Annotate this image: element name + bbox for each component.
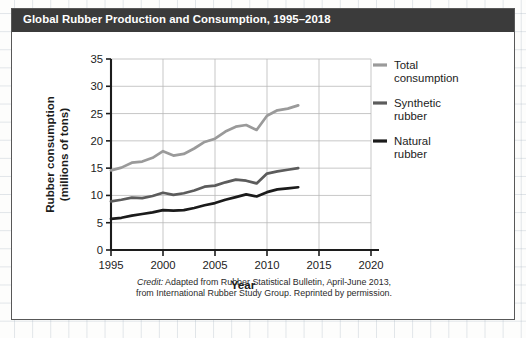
x-tick-label: 1995 [98,259,123,271]
figure-card: Global Rubber Production and Consumption… [11,8,515,320]
y-tick-label: 20 [90,135,103,147]
x-tick-label: 2010 [254,259,279,271]
chart-series-lines [111,105,298,219]
credit-note: Credit: Adapted from Rubber Statistical … [12,277,516,299]
legend-label-line1: Natural [394,135,431,147]
x-tick-label: 2015 [306,259,331,271]
legend-label-line1: Synthetic [394,97,441,109]
y-tick-label: 15 [90,162,103,174]
legend-label-line2: rubber [394,148,427,160]
credit-text-line1: Adapted from Rubber Statistical Bulletin… [163,277,391,287]
legend-label-line1: Total [394,59,418,71]
y-tick-label: 35 [90,53,103,65]
y-tick-label: 0 [97,244,103,256]
x-tick-label: 2000 [150,259,175,271]
legend-label-line2: rubber [394,110,427,122]
legend-label-line2: consumption [394,72,459,84]
x-tick-label: 2020 [358,259,383,271]
y-tick-label: 30 [90,80,103,92]
y-tick-label: 10 [90,189,103,201]
y-axis-title-line1: Rubber consumption [43,96,56,213]
series-line [111,168,298,201]
chart-axes [106,59,379,256]
credit-label: Credit: [137,277,163,287]
series-line [111,105,298,170]
figure-title-bar: Global Rubber Production and Consumption… [12,9,514,32]
series-line [111,187,298,219]
chart-legend: TotalconsumptionSyntheticrubberNaturalru… [373,59,459,160]
x-tick-label: 2005 [202,259,227,271]
y-tick-label: 25 [90,108,103,120]
figure-title: Global Rubber Production and Consumption… [23,13,331,25]
y-tick-label: 5 [97,217,103,229]
chart-gridlines [111,59,371,250]
y-axis-title-line2: (millions of tons) [57,108,70,202]
credit-text-line2: from International Rubber Study Group. R… [136,288,392,298]
